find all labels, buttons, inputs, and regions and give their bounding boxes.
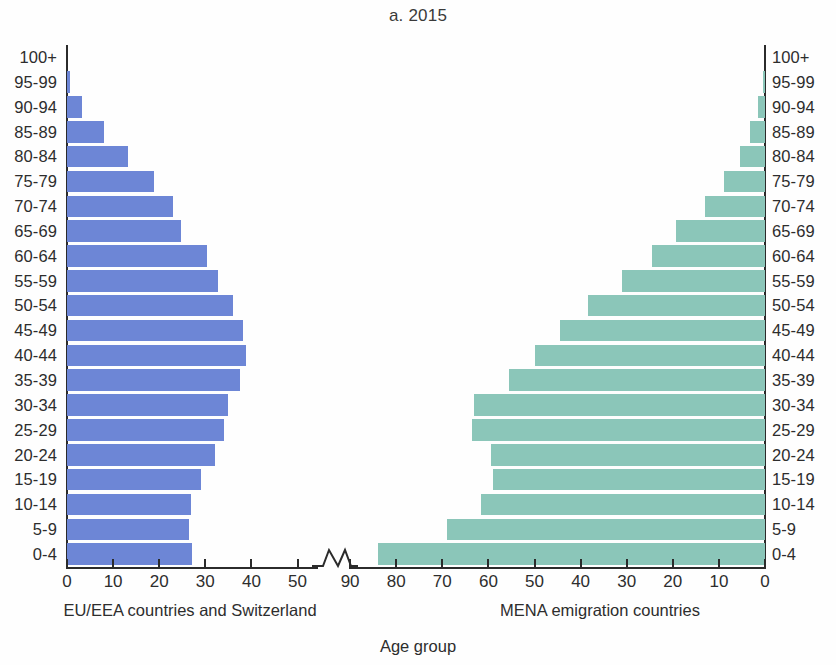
- pyramid-row: 65-6965-69: [0, 219, 836, 244]
- left-10-tick: [112, 559, 114, 568]
- age-label-left: 20-24: [14, 443, 57, 468]
- age-label-left: 85-89: [14, 120, 57, 145]
- pyramid-row: 100+100+: [0, 45, 836, 70]
- bar-right: [378, 543, 765, 565]
- bar-right: [652, 245, 765, 267]
- right-60-tick: [487, 559, 489, 568]
- bar-left: [67, 519, 189, 541]
- age-label-left: 30-34: [14, 393, 57, 418]
- age-label-left: 25-29: [14, 418, 57, 443]
- pyramid-row: 60-6460-64: [0, 244, 836, 269]
- age-label-left: 35-39: [14, 368, 57, 393]
- age-label-left: 45-49: [14, 318, 57, 343]
- pyramid-row: 35-3935-39: [0, 368, 836, 393]
- bar-left: [67, 419, 224, 441]
- right-10-tick: [718, 559, 720, 568]
- right-series-caption: MENA emigration countries: [400, 601, 800, 620]
- right-80-tick: [395, 559, 397, 568]
- age-label-left: 40-44: [14, 343, 57, 368]
- age-label-left: 5-9: [33, 517, 57, 542]
- age-label-right: 55-59: [772, 269, 815, 294]
- bar-right: [535, 345, 766, 367]
- bar-left: [67, 71, 70, 93]
- bar-left: [67, 444, 215, 466]
- age-label-left: 15-19: [14, 467, 57, 492]
- bar-left: [67, 394, 228, 416]
- age-label-left: 65-69: [14, 219, 57, 244]
- axis-break-zigzag-icon: [312, 536, 358, 570]
- pyramid-row: 25-2925-29: [0, 418, 836, 443]
- age-label-left: 100+: [19, 45, 57, 70]
- bar-right: [560, 320, 765, 342]
- age-label-left: 50-54: [14, 293, 57, 318]
- bar-left: [67, 196, 173, 218]
- pyramid-row: 50-5450-54: [0, 293, 836, 318]
- right-70-tick: [441, 559, 443, 568]
- pyramid-row: 95-9995-99: [0, 70, 836, 95]
- age-label-left: 0-4: [33, 542, 57, 567]
- bar-right: [491, 444, 765, 466]
- left-20-tick: [158, 559, 160, 568]
- bar-right: [588, 295, 765, 317]
- age-label-right: 5-9: [772, 517, 796, 542]
- age-label-right: 35-39: [772, 368, 815, 393]
- bar-left: [67, 345, 246, 367]
- age-label-right: 75-79: [772, 169, 815, 194]
- age-label-right: 65-69: [772, 219, 815, 244]
- bar-left: [67, 270, 218, 292]
- right-50-tick: [534, 559, 536, 568]
- age-label-right: 60-64: [772, 244, 815, 269]
- left-0-tick: [66, 559, 68, 568]
- age-label-right: 10-14: [772, 492, 815, 517]
- age-label-right: 20-24: [772, 443, 815, 468]
- age-label-right: 85-89: [772, 120, 815, 145]
- age-label-right: 45-49: [772, 318, 815, 343]
- pyramid-row: 20-2420-24: [0, 443, 836, 468]
- bar-right: [676, 220, 765, 242]
- age-label-right: 80-84: [772, 144, 815, 169]
- age-label-left: 75-79: [14, 169, 57, 194]
- left-50-tick: [297, 559, 299, 568]
- age-label-left: 55-59: [14, 269, 57, 294]
- age-label-left: 90-94: [14, 95, 57, 120]
- bar-right: [758, 96, 765, 118]
- right-30-tick: [626, 559, 628, 568]
- bar-right: [705, 196, 765, 218]
- age-label-right: 90-94: [772, 95, 815, 120]
- left-series-caption: EU/EEA countries and Switzerland: [0, 601, 380, 620]
- age-label-right: 40-44: [772, 343, 815, 368]
- age-label-left: 95-99: [14, 70, 57, 95]
- pyramid-row: 80-8480-84: [0, 144, 836, 169]
- bar-left: [67, 171, 154, 193]
- bar-left: [67, 469, 201, 491]
- age-label-left: 70-74: [14, 194, 57, 219]
- age-label-right: 100+: [772, 45, 810, 70]
- bar-left: [67, 96, 82, 118]
- left-x-axis-line: [66, 567, 318, 569]
- age-label-right: 70-74: [772, 194, 815, 219]
- right-x-axis-line: [349, 567, 766, 569]
- left-40-tick: [250, 559, 252, 568]
- bar-left: [67, 146, 128, 168]
- age-label-left: 10-14: [14, 492, 57, 517]
- bar-left: [67, 245, 207, 267]
- age-label-right: 15-19: [772, 467, 815, 492]
- bar-left: [67, 369, 240, 391]
- bar-right: [447, 519, 765, 541]
- pyramid-row: 55-5955-59: [0, 269, 836, 294]
- bar-right: [481, 494, 765, 516]
- age-label-right: 0-4: [772, 542, 796, 567]
- pyramid-rows: 100+100+95-9995-9990-9490-9485-8985-8980…: [0, 45, 836, 567]
- right-0-tick: [764, 559, 766, 568]
- left-30-tick: [204, 559, 206, 568]
- bar-left: [67, 543, 192, 565]
- pyramid-row: 70-7470-74: [0, 194, 836, 219]
- pyramid-row: 45-4945-49: [0, 318, 836, 343]
- bar-right: [472, 419, 765, 441]
- pyramid-row: 30-3430-34: [0, 393, 836, 418]
- bar-left: [67, 320, 243, 342]
- right-0-tick-label: 0: [735, 572, 795, 592]
- bar-right: [474, 394, 765, 416]
- pyramid-row: 40-4440-44: [0, 343, 836, 368]
- pyramid-row: 5-95-9: [0, 517, 836, 542]
